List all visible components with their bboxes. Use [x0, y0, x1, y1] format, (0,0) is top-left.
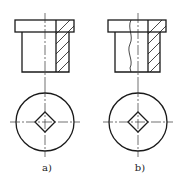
view-a-label: a) — [42, 163, 52, 173]
view-b-label: b) — [135, 163, 145, 173]
view-a-top — [10, 87, 80, 157]
view-b-top — [103, 87, 173, 157]
view-a-front — [15, 14, 76, 84]
technical-drawing — [0, 0, 173, 180]
break-line — [129, 20, 131, 72]
